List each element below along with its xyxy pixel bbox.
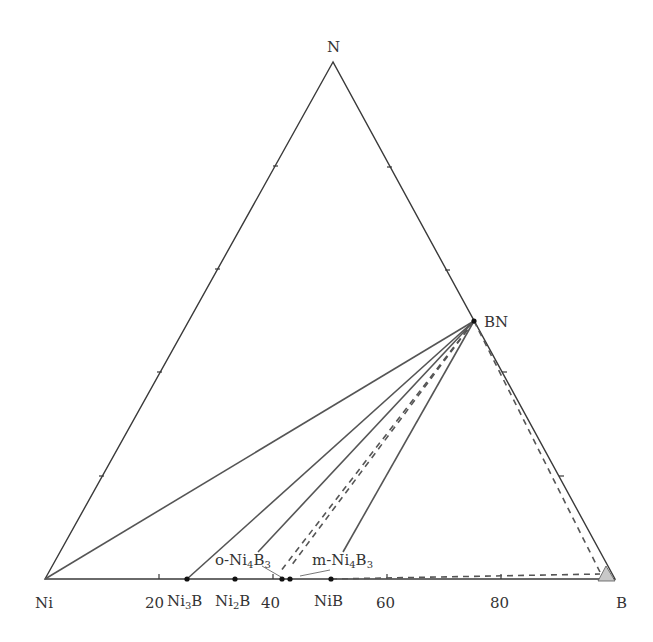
tick-label-80: 80 — [490, 596, 509, 611]
phase-label-m-ni4b3: m-Ni4B3 — [312, 553, 373, 570]
phase-label-o-ni4b3: o-Ni4B3 — [215, 553, 271, 570]
tick-label-40: 40 — [261, 596, 280, 611]
point-ni3b — [184, 576, 189, 581]
point-m-ni4b3 — [287, 576, 292, 581]
phase-label-ni3b: Ni3B — [167, 594, 202, 611]
tie-line-bn-m-ni4b3 — [291, 321, 474, 566]
point-o-ni4b3 — [279, 576, 284, 581]
phase-label-bn: BN — [484, 315, 508, 330]
tie-line-bn-ni — [45, 321, 474, 579]
tick-label-20: 20 — [145, 596, 164, 611]
tie-line-bn-ni2b — [258, 321, 474, 552]
point-bn — [471, 318, 476, 323]
ternary-diagram — [0, 0, 653, 642]
tie-line-nib-b — [331, 574, 600, 579]
tie-line-bn-nib — [343, 321, 474, 552]
vertex-label-n: N — [327, 40, 340, 55]
tie-lines — [45, 321, 600, 579]
vertex-label-ni: Ni — [35, 596, 53, 611]
phase-label-nib: NiB — [314, 594, 343, 609]
tie-line-bn-ni3b — [187, 321, 474, 579]
phase-label-ni2b: Ni2B — [215, 594, 250, 611]
point-nib — [328, 576, 333, 581]
tie-line-bn-b — [474, 321, 600, 572]
leader-m-ni4b3 — [300, 570, 330, 576]
tick-label-60: 60 — [376, 596, 395, 611]
triangle-frame — [45, 62, 615, 579]
vertex-label-b: B — [616, 596, 627, 611]
point-ni2b — [232, 576, 237, 581]
